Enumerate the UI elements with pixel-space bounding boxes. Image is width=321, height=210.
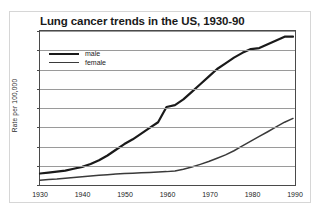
- y-tick-mark: [37, 127, 40, 128]
- legend-label-female: female: [85, 59, 106, 66]
- y-tick-mark: [37, 31, 40, 32]
- y-axis-label: Rate per 100,000: [11, 46, 18, 166]
- x-tick-label: 1960: [148, 191, 188, 198]
- y-tick-mark: [37, 108, 40, 109]
- x-tick-label: 1980: [233, 191, 273, 198]
- top-caption-strip: [0, 0, 321, 11]
- y-tick-mark: [37, 70, 40, 71]
- x-tick-label: 1940: [63, 191, 103, 198]
- y-tick-mark: [37, 166, 40, 167]
- legend-item-male: male: [49, 49, 106, 58]
- legend-item-female: female: [49, 58, 106, 67]
- gridline: [40, 108, 295, 109]
- chart-figure: Lung cancer trends in the US, 1930-90 Ra…: [0, 0, 321, 210]
- x-tick-label: 1990: [275, 191, 315, 198]
- legend-swatch-male: [49, 53, 79, 55]
- gridline: [40, 166, 295, 167]
- gridline: [40, 127, 295, 128]
- plot-area: male female 0102030405060708019301940195…: [39, 30, 296, 186]
- gridline: [40, 147, 295, 148]
- y-tick-mark: [37, 147, 40, 148]
- gridline: [40, 89, 295, 90]
- legend-swatch-female: [49, 62, 79, 63]
- x-tick-label: 1970: [190, 191, 230, 198]
- y-tick-mark: [37, 89, 40, 90]
- gridline: [40, 31, 295, 32]
- legend-label-male: male: [85, 50, 100, 57]
- chart-legend: male female: [45, 47, 110, 70]
- x-tick-label: 1930: [20, 191, 60, 198]
- y-tick-mark: [37, 185, 40, 186]
- y-tick-mark: [37, 50, 40, 51]
- chart-title: Lung cancer trends in the US, 1930-90: [40, 15, 245, 27]
- x-tick-label: 1950: [105, 191, 145, 198]
